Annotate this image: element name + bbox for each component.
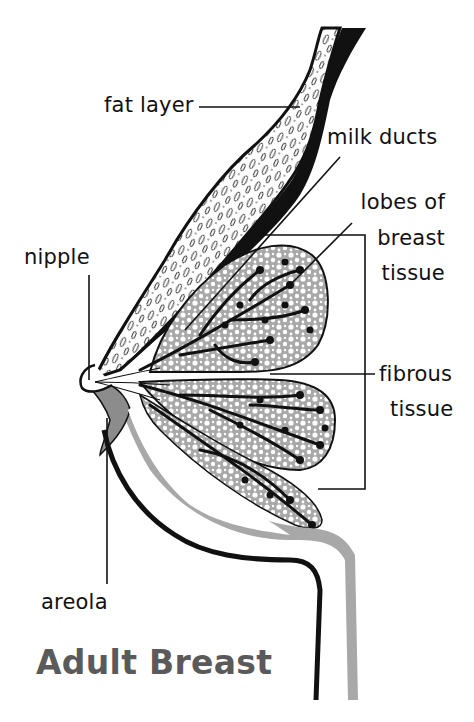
label-fibrous-line1: fibrous xyxy=(379,362,452,386)
diagram: fat layer milk ducts lobes of breast tis… xyxy=(0,0,474,722)
label-milk-ducts: milk ducts xyxy=(327,125,437,149)
label-fibrous-line2: tissue xyxy=(390,397,453,421)
label-areola: areola xyxy=(41,590,108,614)
label-fat-layer: fat layer xyxy=(104,93,194,117)
diagram-title: Adult Breast xyxy=(36,643,272,682)
label-lobes-line3: tissue xyxy=(353,261,445,285)
label-lobes-line1: lobes of xyxy=(353,190,445,214)
label-nipple: nipple xyxy=(24,245,90,269)
label-lobes-line2: breast xyxy=(353,226,445,250)
